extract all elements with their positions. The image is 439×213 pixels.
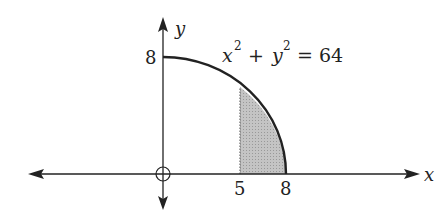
svg-text:2: 2 [283,39,291,53]
shaded-region [240,87,286,174]
svg-text:+: + [248,44,264,66]
circle-equation: x 2 + y 2 = 64 [222,39,343,66]
x-tick-label-8: 8 [280,178,291,199]
svg-text:x: x [222,44,233,66]
svg-text:2: 2 [234,39,242,53]
y-axis-label: y [174,18,186,39]
x-axis-label: x [424,164,434,185]
svg-text:y: y [271,44,283,66]
diagram-canvas: y x 8 5 8 x 2 + y 2 = 64 [0,0,439,213]
y-tick-label-8: 8 [145,47,156,68]
svg-text:= 64: = 64 [297,44,343,66]
x-tick-label-5: 5 [234,178,245,199]
